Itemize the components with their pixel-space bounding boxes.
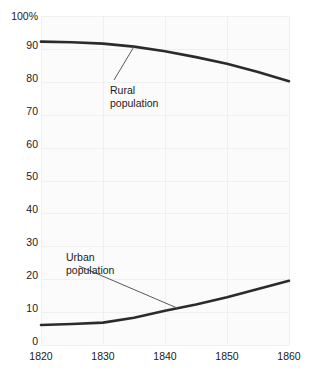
y-tick-label-30: 30	[26, 237, 38, 248]
y-tick-label-100: 100%	[11, 11, 38, 22]
y-tick-label-40: 40	[26, 204, 38, 215]
line-chart: 100% 90 80 70 60 50 40 30 20 10 0 1820 1…	[0, 0, 310, 376]
y-tick-label-90: 90	[26, 40, 38, 51]
plot-area	[41, 16, 289, 345]
y-tick-label-80: 80	[26, 73, 38, 84]
y-tick-label-60: 60	[26, 139, 38, 150]
x-tick-label-1830: 1830	[83, 351, 123, 362]
y-tick-label-50: 50	[26, 171, 38, 182]
x-tick-label-1840: 1840	[145, 351, 185, 362]
x-tick-label-1820: 1820	[21, 351, 61, 362]
y-tick-label-0: 0	[32, 336, 38, 347]
x-tick-label-1860: 1860	[269, 351, 309, 362]
y-tick-label-20: 20	[26, 270, 38, 281]
y-tick-label-70: 70	[26, 106, 38, 117]
leader-line-rural	[114, 47, 134, 80]
y-tick-label-10: 10	[26, 303, 38, 314]
x-tick-label-1850: 1850	[207, 351, 247, 362]
annotation-leader-lines	[41, 16, 289, 345]
annotation-label-rural: Rural population	[110, 84, 158, 109]
annotation-label-urban: Urban population	[66, 251, 114, 276]
